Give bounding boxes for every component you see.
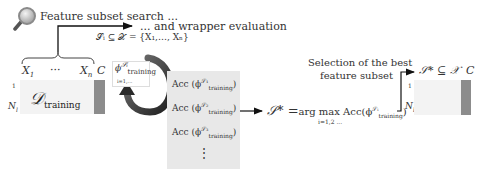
col-x1: X1 [22, 64, 34, 77]
accuracy-list: Acc (ϕ𝒮₁training) Acc (ϕ𝒮₂training) Acc … [167, 71, 240, 169]
acc-more: ⋮ [198, 146, 210, 160]
row-first: 1 [12, 82, 16, 89]
selection-formula: 𝒮* =arg max Acc(ϕ𝒮ᵢtraining) [267, 103, 407, 119]
row-last: Nl [8, 101, 18, 111]
selection-index: i=1,2 ... [318, 118, 342, 125]
model-index: i=1,... [117, 78, 132, 84]
model-box: ϕ𝒮ᵢtraining i=1,... [112, 61, 150, 87]
class-column [94, 80, 105, 114]
selection-title-2: feature subset [320, 70, 393, 81]
model-phi: ϕ𝒮ᵢtraining [115, 63, 156, 73]
magnifier-icon [12, 5, 38, 31]
acc-item: Acc (ϕ𝒮₂training) [172, 103, 236, 113]
brace [22, 52, 94, 64]
col-xn: Xn [80, 64, 92, 77]
result-class-column [461, 80, 471, 115]
subset-definition: 𝒮ᵢ ⊆ 𝒳 = {X₁,…, Xₙ} [96, 32, 189, 43]
dataset-label: 𝒟training [30, 88, 80, 108]
col-ellipsis: ··· [50, 64, 61, 77]
acc-item: Acc (ϕ𝒮₃training) [172, 127, 236, 137]
result-data-area [414, 80, 461, 115]
selection-title-1: Selection of the best [308, 57, 412, 68]
col-class: C [97, 64, 105, 77]
result-row-first: 1 [408, 82, 412, 89]
acc-item: Acc (ϕ𝒮₁training) [172, 79, 236, 89]
result-class: C [466, 64, 474, 77]
result-header: 𝒮* ⊆ 𝒳 [419, 64, 459, 77]
